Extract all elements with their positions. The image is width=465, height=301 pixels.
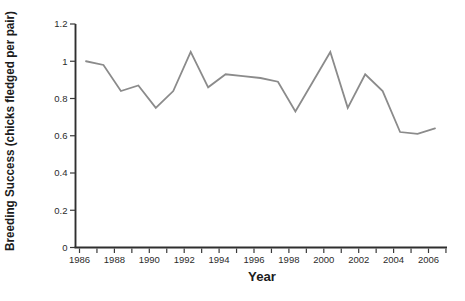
axes-layer: 00.20.40.60.811.219861988199019921994199… (54, 18, 447, 264)
x-tick-label: 1998 (278, 254, 299, 265)
chart-figure: 00.20.40.60.811.219861988199019921994199… (0, 0, 465, 301)
y-axis-title: Breeding Success (chicks fledged per pai… (3, 11, 17, 251)
x-tick-label: 1994 (209, 254, 230, 265)
x-tick-label: 1988 (104, 254, 125, 265)
y-tick-label: 0 (62, 242, 67, 253)
breeding-success-data-line (86, 52, 435, 134)
series-layer (86, 52, 435, 134)
x-tick-label: 2002 (348, 254, 369, 265)
y-tick-label: 0.4 (54, 167, 67, 178)
breeding-success-line-chart: 00.20.40.60.811.219861988199019921994199… (0, 0, 465, 301)
x-tick-label: 2006 (418, 254, 439, 265)
x-tick-label: 2000 (313, 254, 334, 265)
y-tick-label: 0.8 (54, 93, 67, 104)
y-tick-label: 1.2 (54, 18, 67, 29)
x-tick-label: 1996 (243, 254, 264, 265)
x-tick-label: 2004 (383, 254, 404, 265)
x-axis-title: Year (248, 269, 276, 284)
x-tick-label: 1992 (174, 254, 195, 265)
x-tick-label: 1990 (139, 254, 160, 265)
x-tick-label: 1986 (69, 254, 90, 265)
y-tick-label: 0.6 (54, 130, 67, 141)
y-tick-label: 1 (62, 56, 67, 67)
y-tick-label: 0.2 (54, 205, 67, 216)
